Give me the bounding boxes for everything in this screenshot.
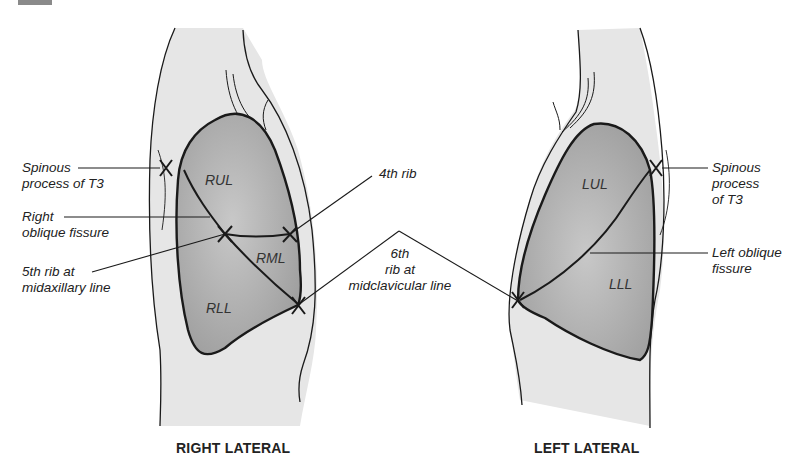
label-line: Spinous: [712, 160, 761, 176]
label-line: midaxillary line: [22, 280, 111, 296]
label-line: Spinous: [22, 160, 104, 176]
caption-right-lateral: RIGHT LATERAL: [176, 440, 290, 456]
lobe-rml: RML: [256, 250, 286, 266]
label-line: 6th: [345, 246, 455, 262]
label-6th-rib: 6th rib at midclavicular line: [345, 246, 455, 294]
label-line: midclavicular line: [345, 278, 455, 294]
label-line: rib at: [345, 262, 455, 278]
label-line: process: [712, 176, 761, 192]
label-left-oblique-fissure: Left oblique fissure: [712, 245, 782, 277]
label-spinous-left: Spinous process of T3: [712, 160, 761, 208]
lobe-rll: RLL: [206, 300, 232, 316]
label-5th-rib: 5th rib at midaxillary line: [22, 264, 111, 296]
label-line: oblique fissure: [22, 225, 109, 241]
lobe-rul: RUL: [205, 172, 233, 188]
lung-lobes-diagram: [0, 0, 807, 467]
label-spinous-right: Spinous process of T3: [22, 160, 104, 192]
label-line: process of T3: [22, 176, 104, 192]
label-4th-rib: 4th rib: [379, 166, 417, 182]
label-line: Left oblique: [712, 245, 782, 261]
label-right-oblique-fissure: Right oblique fissure: [22, 209, 109, 241]
lobe-lul: LUL: [582, 176, 608, 192]
label-line: Right: [22, 209, 109, 225]
label-line: fissure: [712, 261, 782, 277]
caption-left-lateral: LEFT LATERAL: [534, 440, 640, 456]
label-line: 5th rib at: [22, 264, 111, 280]
label-line: of T3: [712, 192, 761, 208]
lobe-lll: LLL: [609, 276, 632, 292]
